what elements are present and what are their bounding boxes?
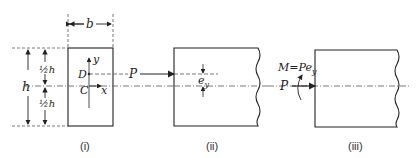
moment-label: M=Pey xyxy=(277,61,317,76)
caption-iii: (iii) xyxy=(348,140,363,152)
eccentricity-label: ey xyxy=(198,74,210,89)
beam-segment-iii xyxy=(315,50,399,127)
load-p-label: P xyxy=(128,67,138,81)
height-label: h xyxy=(22,79,30,94)
point-d-label: D xyxy=(77,68,87,81)
moment-arrow-icon xyxy=(298,75,302,100)
half-height-dimensions: ½h ½h xyxy=(39,50,55,124)
x-axis-label: x xyxy=(101,84,108,97)
panel-ii-eccentric-load: ey (ii) xyxy=(140,48,268,152)
panel-iii-equivalent-load: P M=Pey (iii) xyxy=(268,50,410,152)
y-axis-label: y xyxy=(92,53,100,66)
width-label: b xyxy=(86,17,94,31)
caption-ii: (ii) xyxy=(206,140,218,152)
point-c-label: C xyxy=(80,84,89,97)
beam-segment-ii xyxy=(174,48,260,126)
panel-i-cross-section: b h ½h ½h y x D C xyxy=(12,14,174,152)
load-p-label-iii: P xyxy=(279,79,289,93)
height-dimension: h xyxy=(22,50,30,124)
half-top-label: ½h xyxy=(39,64,55,75)
half-bottom-label: ½h xyxy=(39,98,55,109)
width-dimension: b xyxy=(70,17,111,31)
eccentric-load-diagram: b h ½h ½h y x D C xyxy=(0,0,416,158)
caption-i: (i) xyxy=(80,140,90,152)
